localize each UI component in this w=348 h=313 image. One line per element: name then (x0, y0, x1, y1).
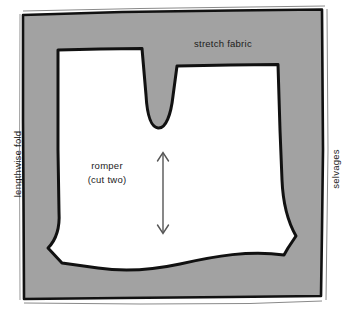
label-stretch-fabric: stretch fabric (194, 38, 252, 50)
label-selvages: selvages (330, 129, 342, 209)
label-romper-piece: romper (cut two) (70, 160, 144, 186)
layout-illustration (0, 0, 348, 313)
label-romper-quantity: (cut two) (70, 174, 144, 186)
pattern-layout-diagram: stretch fabric romper (cut two) lengthwi… (0, 0, 348, 313)
label-lengthwise-fold: lengthwise fold (12, 114, 24, 214)
label-romper-name: romper (91, 160, 123, 171)
